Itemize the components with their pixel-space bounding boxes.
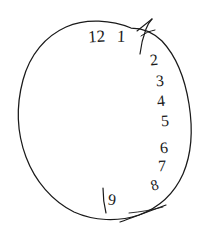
numeral-1: 1 xyxy=(117,28,126,45)
numeral-3: 3 xyxy=(155,73,164,90)
numeral-4: 4 xyxy=(156,93,166,110)
numeral-9: 9 xyxy=(107,192,117,209)
stray-stroke-near-9 xyxy=(103,188,106,213)
numeral-2: 2 xyxy=(149,52,159,69)
clock-hand-lower xyxy=(120,205,166,222)
clock-drawing-canvas: 12 1 2 3 4 5 6 7 8 9 xyxy=(0,0,208,235)
numeral-12: 12 xyxy=(87,27,105,45)
numeral-5: 5 xyxy=(161,113,170,129)
clock-hand-upper xyxy=(137,19,155,54)
numeral-7: 7 xyxy=(158,158,167,174)
numeral-6: 6 xyxy=(159,140,169,157)
